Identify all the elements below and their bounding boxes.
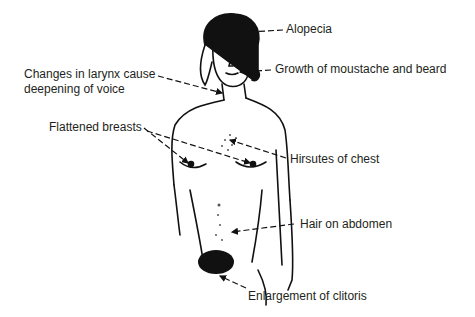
label-larynx-line2: deepening of voice (24, 82, 125, 96)
label-alopecia: Alopecia (286, 22, 332, 36)
label-moustache-beard: Growth of moustache and beard (275, 62, 446, 76)
virilization-diagram: Alopecia Growth of moustache and beard C… (0, 0, 475, 317)
label-flattened-breasts: Flattened breasts (49, 120, 142, 134)
label-hirsutes-chest: Hirsutes of chest (290, 152, 379, 166)
label-hair-abdomen: Hair on abdomen (300, 217, 392, 231)
body-illustration (0, 0, 475, 317)
label-larynx-line1: Changes in larynx cause (24, 67, 155, 81)
label-enlargement-clitoris: Enlargement of clitoris (248, 289, 367, 303)
